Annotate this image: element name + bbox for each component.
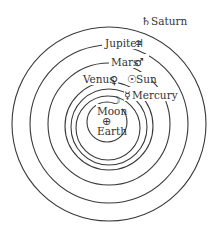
mercury-symbol: ☿ [124, 89, 131, 102]
body-jupiter: Jupiter ♃ [104, 37, 144, 50]
venus-symbol: ♀ [110, 74, 118, 87]
saturn-symbol: ♄ [141, 15, 151, 28]
body-venus: Venus ♀ [82, 73, 118, 87]
earth-label: Earth [97, 125, 127, 137]
body-mars: Mars ♂ [111, 56, 144, 69]
mercury-label: Mercury [132, 89, 178, 101]
saturn-label: Saturn [151, 15, 187, 27]
body-mercury: ☿ Mercury [124, 89, 178, 102]
jupiter-symbol: ♃ [134, 37, 144, 50]
sun-label: Sun [136, 73, 157, 85]
body-earth: ⊕ Earth [97, 115, 127, 137]
body-moon: ☽ Moon [97, 94, 127, 117]
mars-symbol: ♂ [134, 56, 144, 69]
body-sun: ☉ Sun [127, 73, 157, 86]
body-saturn: ♄ Saturn [141, 15, 187, 28]
geocentric-diagram: ♄ Saturn Jupiter ♃ Mars ♂ Venus ♀ ☉ Sun … [0, 0, 214, 240]
